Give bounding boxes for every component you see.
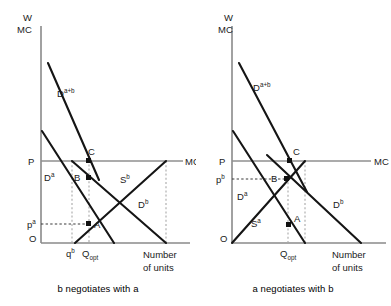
- point-label-b-left: B: [74, 172, 80, 183]
- point-label-b-right: B: [271, 173, 277, 184]
- point-label-c-left: C: [88, 146, 95, 157]
- point-label-c-right: C: [293, 146, 300, 157]
- origin-label-right: O: [220, 233, 227, 244]
- curve-supply-a-right: [232, 161, 305, 243]
- price-label-pa-left: pa: [27, 218, 36, 230]
- y-axis-label-w-right: W: [224, 12, 233, 23]
- marker-point-a-right: [286, 222, 291, 227]
- marker-point-b-left: [86, 175, 91, 180]
- curve-label-demand-sum-right: Da+b: [253, 81, 271, 93]
- panel-b-negotiates-with-a: W MC O Number of units P pa MC Da+b Da S…: [0, 0, 196, 306]
- curve-label-demand-a-left: Da: [44, 171, 55, 183]
- price-label-p-left: P: [28, 156, 34, 167]
- point-label-a-right: A: [294, 213, 301, 224]
- caption-left: b negotiates with a: [0, 283, 196, 294]
- curve-label-demand-sum-left: Da+b: [57, 87, 75, 99]
- x-axis-label-line2-left: of units: [143, 262, 174, 273]
- curve-label-demand-b-left: Db: [138, 198, 149, 210]
- price-label-p-right: P: [219, 156, 225, 167]
- economics-figure: W MC O Number of units P pa MC Da+b Da S…: [0, 0, 391, 306]
- chart-right: W MC O Number of units P pb MC Da+b Da S…: [195, 0, 391, 280]
- mc-line-label-right: MC: [374, 156, 389, 167]
- x-tick-label-qb-left: qb: [66, 247, 75, 259]
- curve-label-supply-b-left: Sb: [120, 173, 130, 185]
- marker-point-c-right: [287, 158, 292, 163]
- y-axis-label-w-left: W: [23, 12, 32, 23]
- chart-left: W MC O Number of units P pa MC Da+b Da S…: [0, 0, 196, 280]
- marker-point-b-right: [284, 176, 289, 181]
- price-label-pb-right: pb: [216, 173, 225, 185]
- caption-right: a negotiates with b: [195, 283, 391, 294]
- curve-label-demand-b-right: Db: [333, 198, 344, 210]
- curve-label-supply-a-right: Sa: [251, 217, 261, 229]
- x-tick-label-qopt-right: Qopt: [280, 248, 296, 262]
- x-axis-label-line2-right: of units: [332, 262, 363, 273]
- origin-label-left: O: [29, 233, 36, 244]
- y-axis-label-mc-left: MC: [17, 24, 32, 35]
- point-label-a-left: A: [94, 219, 101, 230]
- y-axis-label-mc-right: MC: [218, 24, 233, 35]
- curve-label-demand-a-right: Da: [237, 190, 248, 202]
- x-axis-label-line1-right: Number: [332, 249, 366, 260]
- curve-demand-b-right: [267, 155, 361, 243]
- x-tick-label-qopt-left: Qopt: [82, 248, 98, 262]
- marker-point-c-left: [86, 158, 91, 163]
- marker-point-a-left: [86, 221, 91, 226]
- x-axis-label-line1-left: Number: [143, 249, 177, 260]
- panel-a-negotiates-with-b: W MC O Number of units P pb MC Da+b Da S…: [195, 0, 391, 306]
